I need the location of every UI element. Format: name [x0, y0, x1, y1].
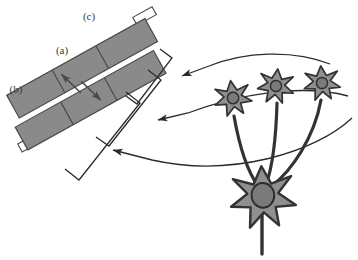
nucleus — [316, 77, 328, 89]
axon-1 — [234, 116, 258, 186]
nucleus — [227, 92, 240, 105]
axon-2 — [266, 103, 277, 185]
glial-cell — [212, 78, 253, 117]
label-c: (c) — [83, 10, 96, 23]
nucleus — [270, 80, 282, 92]
figure-container: (a) (b) (c) — [0, 0, 358, 260]
pointer-arrow-bottom — [113, 118, 352, 166]
diagram-canvas: (a) (b) (c) — [0, 0, 358, 260]
glial-cell — [303, 65, 341, 101]
pointer-arrow-top — [182, 54, 330, 76]
nucleus — [251, 182, 275, 208]
label-b: (b) — [10, 83, 23, 96]
label-a: (a) — [56, 44, 69, 57]
glial-cell — [256, 67, 295, 104]
